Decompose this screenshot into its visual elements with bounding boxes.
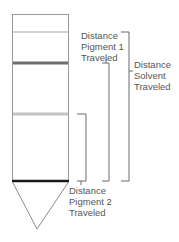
bracket-pigment-1 — [102, 63, 109, 181]
label-pigment-2-line-2: Pigment 2 — [69, 196, 112, 207]
label-pigment-1: Distance Pigment 1 Traveled — [81, 30, 126, 63]
label-pigment-1-line-2: Pigment 1 — [81, 41, 124, 52]
bracket-solvent — [121, 32, 129, 181]
strip-tip — [13, 182, 69, 229]
label-pigment-2: Distance Pigment 2 Traveled — [69, 185, 114, 218]
label-pigment-2-line-3: Traveled — [69, 207, 106, 218]
label-solvent: Distance Solvent Traveled — [134, 59, 174, 92]
label-solvent-line-3: Traveled — [134, 81, 171, 92]
paper-strip — [13, 15, 69, 182]
label-solvent-line-1: Distance — [134, 59, 171, 70]
label-pigment-2-line-1: Distance — [69, 185, 106, 196]
bracket-pigment-2 — [77, 114, 86, 181]
label-solvent-line-2: Solvent — [134, 70, 166, 81]
label-pigment-1-line-1: Distance — [81, 30, 118, 41]
chromatography-diagram: Distance Pigment 1 Traveled Distance Sol… — [0, 0, 179, 242]
label-pigment-1-line-3: Traveled — [81, 52, 118, 63]
